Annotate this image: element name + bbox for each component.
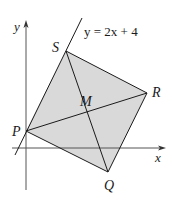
point-label-q: Q [104,178,114,193]
point-label-p: P [11,124,21,139]
point-label-s: S [52,40,59,55]
point-label-m: M [79,94,93,109]
point-label-r: R [151,85,161,100]
line-equation-label: y = 2x + 4 [84,24,138,39]
diagram-figure: y x y = 2x + 4 S R M P Q [0,0,172,202]
x-axis-label: x [154,150,161,165]
y-axis-label: y [12,19,20,34]
